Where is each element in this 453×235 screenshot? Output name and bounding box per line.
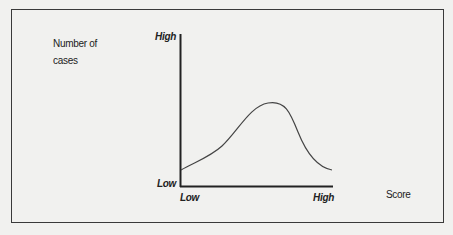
plot-area — [0, 0, 453, 235]
distribution-curve — [181, 103, 332, 170]
